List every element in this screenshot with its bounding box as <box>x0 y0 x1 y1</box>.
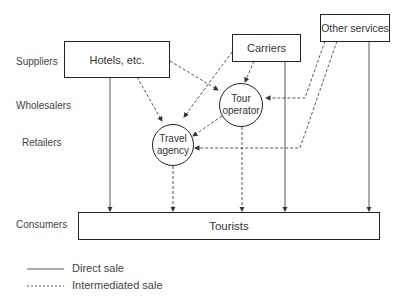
node-hotels: Hotels, etc. <box>64 41 170 78</box>
legend-intermediated-label: Intermediated sale <box>72 279 163 291</box>
node-travel-agency: Travelagency <box>152 124 194 166</box>
node-tour-operator: Touroperator <box>219 83 263 127</box>
node-other-services: Other services <box>320 14 390 42</box>
level-consumers: Consumers <box>16 219 67 230</box>
travel-agency-line1: Travel <box>157 133 189 145</box>
level-retailers: Retailers <box>22 137 61 148</box>
level-suppliers: Suppliers <box>16 56 58 67</box>
node-carriers: Carriers <box>232 34 301 62</box>
tour-operator-line2: operator <box>222 105 259 117</box>
diagram-connectors <box>0 0 405 305</box>
level-wholesalers: Wholesalers <box>16 100 71 111</box>
tour-operator-line1: Tour <box>222 93 259 105</box>
node-tourists: Tourists <box>78 212 380 240</box>
legend-direct-label: Direct sale <box>72 262 124 274</box>
travel-agency-line2: agency <box>157 145 189 157</box>
